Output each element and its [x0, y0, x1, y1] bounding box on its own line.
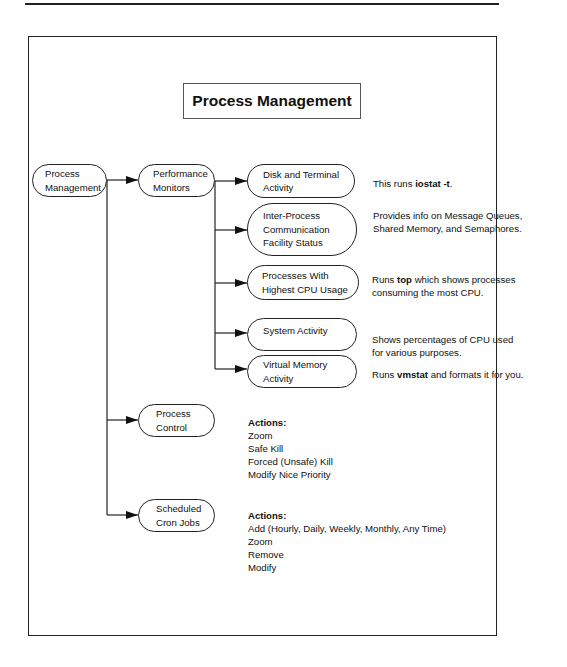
node-process-control: Process Control [138, 404, 215, 437]
desc-text: and formats it for you. [428, 369, 523, 380]
node-label: Activity [263, 181, 354, 195]
command-name: iostat -t [415, 178, 450, 189]
node-label: Virtual Memory [263, 358, 356, 372]
action-item: Zoom [248, 429, 333, 442]
node-label: Processes With [262, 269, 358, 283]
node-label: Process [45, 167, 106, 181]
node-label: Monitors [153, 181, 214, 195]
node-label: Communication [263, 223, 356, 237]
node-label: Cron Jobs [156, 516, 214, 530]
desc-system-activity: Shows percentages of CPU used for variou… [372, 333, 513, 359]
desc-text: consuming the most CPU. [372, 286, 515, 299]
desc-text: Runs [372, 274, 397, 285]
desc-ipc: Provides info on Message Queues, Shared … [373, 209, 522, 235]
node-highest-cpu-usage: Processes With Highest CPU Usage [247, 265, 359, 300]
node-scheduled-cron-jobs: Scheduled Cron Jobs [138, 499, 215, 532]
action-item: Forced (Unsafe) Kill [248, 455, 333, 468]
node-disk-terminal-activity: Disk and Terminal Activity [247, 164, 355, 198]
node-ipc-facility-status: Inter-Process Communication Facility Sta… [247, 203, 357, 256]
actions-header: Actions: [248, 509, 446, 522]
process-control-actions: Actions: Zoom Safe Kill Forced (Unsafe) … [248, 416, 333, 481]
node-label: Scheduled [156, 502, 214, 516]
node-label: Process [156, 407, 214, 421]
node-label: System Activity [263, 324, 356, 338]
desc-text: Shared Memory, and Semaphores. [373, 222, 522, 235]
action-item: Modify [248, 561, 446, 574]
action-item: Remove [248, 548, 446, 561]
node-label: Highest CPU Usage [262, 283, 358, 297]
action-item: Safe Kill [248, 442, 333, 455]
cron-jobs-actions: Actions: Add (Hourly, Daily, Weekly, Mon… [248, 509, 446, 574]
desc-text: for various purposes. [372, 346, 513, 359]
node-label: Management [45, 181, 106, 195]
command-name: top [397, 274, 412, 285]
desc-text: which shows processes [412, 274, 515, 285]
desc-text: This runs [373, 178, 415, 189]
desc-top: Runs top which shows processes consuming… [372, 273, 515, 299]
node-label: Inter-Process [263, 209, 356, 223]
desc-vmstat: Runs vmstat and formats it for you. [372, 368, 523, 381]
desc-disk-terminal: This runs iostat -t. [373, 177, 452, 190]
desc-text: Provides info on Message Queues, [373, 209, 522, 222]
action-item: Modify Nice Priority [248, 468, 333, 481]
node-process-management: Process Management [32, 164, 107, 197]
node-system-activity: System Activity [247, 318, 357, 351]
node-virtual-memory-activity: Virtual Memory Activity [247, 355, 357, 388]
desc-text: Runs [372, 369, 397, 380]
action-item: Zoom [248, 535, 446, 548]
desc-text: Shows percentages of CPU used [372, 333, 513, 346]
node-label: Performance [153, 167, 214, 181]
node-label: Facility Status [263, 236, 356, 250]
node-label: Disk and Terminal [263, 168, 354, 182]
actions-header: Actions: [248, 416, 333, 429]
action-item: Add (Hourly, Daily, Weekly, Monthly, Any… [248, 522, 446, 535]
desc-text: . [450, 178, 453, 189]
node-label: Activity [263, 372, 356, 386]
command-name: vmstat [397, 369, 428, 380]
node-label: Control [156, 421, 214, 435]
node-performance-monitors: Performance Monitors [138, 164, 215, 197]
